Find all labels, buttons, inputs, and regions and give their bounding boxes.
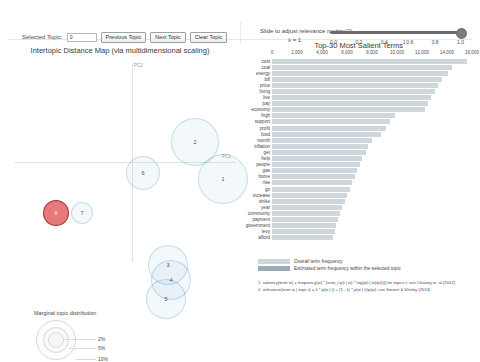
barchart-term-label[interactable]: economy	[244, 107, 272, 112]
barchart-bar-container	[272, 113, 480, 118]
legend-swatch-overall	[258, 259, 290, 264]
barchart-term-label[interactable]: people	[244, 162, 272, 167]
barchart-term-label[interactable]: help	[244, 156, 272, 161]
barchart-bar-container	[272, 205, 480, 210]
barchart-bar-container	[272, 71, 480, 76]
barchart-x-tick: 2,000	[291, 50, 302, 55]
barchart-term-label[interactable]: strike	[244, 199, 272, 204]
barchart-term-label[interactable]: live	[244, 95, 272, 100]
topic-bubble-7[interactable]: 7	[71, 202, 93, 224]
bar-overall-frequency	[272, 59, 467, 64]
marginal-tick-5pct: 5%	[98, 345, 105, 351]
barchart-term-label[interactable]: inflation	[244, 144, 272, 149]
barchart-bar-container	[272, 119, 480, 124]
bar-overall-frequency	[272, 101, 428, 106]
barchart-term-label[interactable]: profit	[244, 126, 272, 131]
barchart-term-label[interactable]: living	[244, 89, 272, 94]
barchart-term-label[interactable]: food	[244, 132, 272, 137]
barchart-term-label[interactable]: cost	[244, 59, 272, 64]
barchart-bar-container	[272, 89, 480, 94]
barchart-term-label[interactable]: year	[244, 205, 272, 210]
topic-bubble-label: 5	[147, 280, 185, 318]
barchart-term-label[interactable]: rise	[244, 180, 272, 185]
bar-overall-frequency	[272, 174, 355, 179]
barchart-bar-container	[272, 132, 480, 137]
bar-overall-frequency	[272, 138, 372, 143]
marginal-tick-10pct: 10%	[98, 356, 108, 362]
bar-overall-frequency	[272, 205, 342, 210]
barchart-bar-container	[272, 199, 480, 204]
legend-label-topic: Estimated term frequency within the sele…	[294, 266, 401, 271]
clear-topic-button[interactable]: Clear Topic	[190, 32, 227, 43]
barchart-x-tick: 12,000	[415, 50, 429, 55]
barchart-term-label[interactable]: bill	[244, 77, 272, 82]
barchart-term-label[interactable]: increase	[244, 193, 272, 198]
barchart-term-label[interactable]: gas	[244, 168, 272, 173]
barchart-term-label[interactable]: coal	[244, 65, 272, 70]
bar-overall-frequency	[272, 211, 340, 216]
barchart-term-label[interactable]: afford	[244, 235, 272, 240]
barchart-x-tick: 10,000	[390, 50, 404, 55]
legend-label-overall: Overall term frequency	[294, 259, 343, 264]
relevance-slider-handle[interactable]	[456, 28, 467, 39]
bar-overall-frequency	[272, 150, 366, 155]
bar-overall-frequency	[272, 95, 431, 100]
barchart-term-label[interactable]: home	[244, 174, 272, 179]
bar-overall-frequency	[272, 162, 360, 167]
barchart-bar-container	[272, 83, 480, 88]
bar-overall-frequency	[272, 229, 335, 234]
barchart-term-label[interactable]: support	[244, 119, 272, 124]
barchart-bar-container	[272, 174, 480, 179]
barchart-bar-container	[272, 211, 480, 216]
bar-overall-frequency	[272, 156, 362, 161]
footnote-relevance: 2. relevance(term w | topic t) = λ * p(w…	[258, 286, 480, 293]
barchart-row[interactable]: afford	[244, 235, 480, 241]
barchart-bar-container	[272, 138, 480, 143]
barchart-legend: Overall term frequency Estimated term fr…	[258, 259, 478, 273]
barchart-term-label[interactable]: get	[244, 150, 272, 155]
topic-bubble-8[interactable]: 8	[43, 200, 69, 226]
barchart-term-label[interactable]: pay	[244, 101, 272, 106]
barchart-bar-container	[272, 77, 480, 82]
bar-overall-frequency	[272, 89, 435, 94]
marginal-topic-distribution-circles: 2% 5% 10%	[34, 318, 134, 362]
barchart-term-label[interactable]: go	[244, 187, 272, 192]
bar-overall-frequency	[272, 187, 350, 192]
barchart-term-label[interactable]: payment	[244, 217, 272, 222]
salient-terms-barchart: 02,0004,0006,0008,00010,00012,00014,0001…	[244, 50, 480, 260]
marginal-tick-2pct: 2%	[98, 336, 105, 342]
previous-topic-button[interactable]: Previous Topic	[101, 32, 147, 43]
topic-bubble-5[interactable]: 5	[146, 279, 186, 319]
barchart-term-label[interactable]: high	[244, 113, 272, 118]
topic-bubble-6[interactable]: 6	[126, 156, 160, 190]
bar-overall-frequency	[272, 83, 438, 88]
barchart-term-label[interactable]: price	[244, 83, 272, 88]
bar-overall-frequency	[272, 126, 386, 131]
bar-overall-frequency	[272, 193, 347, 198]
barchart-term-label[interactable]: month	[244, 138, 272, 143]
selected-topic-input[interactable]	[67, 33, 97, 42]
barchart-term-label[interactable]: energy	[244, 71, 272, 76]
barchart-term-label[interactable]: community	[244, 211, 272, 216]
salient-terms-title-footnote-marker: 1	[403, 40, 406, 45]
barchart-bar-container	[272, 168, 480, 173]
next-topic-button[interactable]: Next Topic	[150, 32, 186, 43]
marginal-circle-2pct	[48, 332, 64, 348]
bar-overall-frequency	[272, 144, 368, 149]
barchart-x-tick: 16,000	[465, 50, 479, 55]
bar-overall-frequency	[272, 113, 395, 118]
barchart-term-label[interactable]: levy	[244, 229, 272, 234]
relevance-slider-track[interactable]	[330, 31, 460, 34]
barchart-x-tick: 4,000	[316, 50, 327, 55]
marginal-leader-line	[64, 339, 96, 340]
barchart-bar-container	[272, 107, 480, 112]
intertopic-distance-map: PC2 PC1 87621345 Marginal topic distribu…	[8, 58, 240, 306]
barchart-term-label[interactable]: government	[244, 223, 272, 228]
barchart-bar-container	[272, 235, 480, 240]
topic-bubble-1[interactable]: 1	[198, 154, 248, 204]
barchart-bar-container	[272, 180, 480, 185]
bar-overall-frequency	[272, 223, 336, 228]
bar-overall-frequency	[272, 107, 425, 112]
bar-overall-frequency	[272, 199, 345, 204]
